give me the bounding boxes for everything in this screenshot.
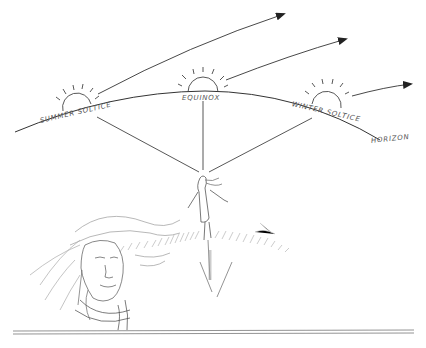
summer-arrow [98, 14, 284, 94]
equinox-arrow [226, 39, 346, 80]
walking-figure [188, 176, 232, 297]
sightline-winter [209, 118, 312, 172]
ground-line-top [13, 330, 414, 331]
sightline-summer [97, 117, 199, 172]
illustration-canvas: SUMMER SOLTICE EQUINOX WINTER SOLTICE HO… [0, 0, 426, 348]
equinox-label: EQUINOX [182, 94, 220, 102]
sun-path-diagram [0, 0, 426, 348]
ground-line-bottom [13, 333, 414, 334]
equinox-sun-icon [178, 67, 228, 92]
winter-arrow [352, 84, 411, 96]
elder-portrait [30, 216, 180, 330]
